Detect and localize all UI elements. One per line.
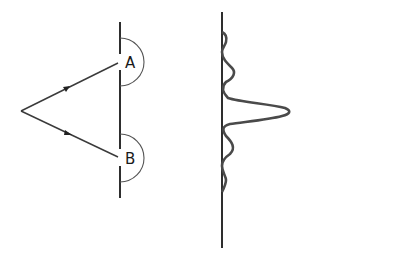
ray-to-a — [21, 63, 118, 111]
intensity-curve — [222, 32, 289, 192]
slit-label-a: A — [125, 54, 136, 72]
interference-diagram: A B — [0, 0, 401, 260]
arrow-icon-lower — [64, 130, 72, 135]
slit-label-b: B — [125, 150, 135, 168]
